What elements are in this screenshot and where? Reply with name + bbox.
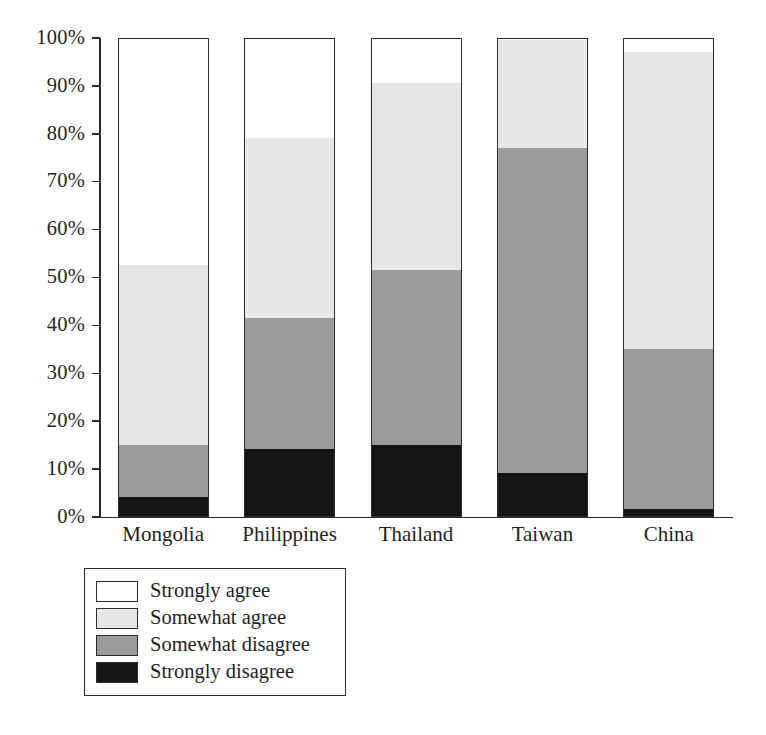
bar-segment-somewhat-agree[interactable] [371,83,462,270]
legend-swatch-icon [96,581,138,602]
bar-segment-somewhat-disagree[interactable] [118,445,209,498]
bar-segment-somewhat-agree[interactable] [118,265,209,445]
y-axis-tick-label: 100% [36,27,92,48]
bar-philippines[interactable] [244,38,335,517]
y-axis-tick-label: 80% [47,123,92,144]
bar-china[interactable] [623,38,714,517]
y-axis-tick-label: 70% [47,170,92,191]
bar-segment-somewhat-agree[interactable] [244,138,335,318]
y-axis-tick-label: 20% [47,410,92,431]
y-axis-tick-label: 30% [47,362,92,383]
legend-label: Strongly agree [150,580,270,601]
y-axis-tick-label: 40% [47,314,92,335]
y-axis-tick-label: 60% [47,218,92,239]
y-axis-tick-label: 50% [47,266,92,287]
y-axis-tick-label: 10% [47,458,92,479]
legend-item-somewhat-disagree[interactable]: Somewhat disagree [96,632,335,659]
y-axis-tick-mark [92,133,100,135]
legend-label: Somewhat agree [150,607,286,628]
y-axis-tick-label: 0% [57,506,92,527]
y-axis-tick-mark [92,181,100,183]
bar-segment-strongly-agree[interactable] [371,38,462,83]
bar-segment-strongly-agree[interactable] [118,38,209,265]
y-axis-tick-mark [92,420,100,422]
y-axis-tick-mark [92,468,100,470]
y-axis-tick-mark [92,37,100,39]
chart-legend: Strongly agreeSomewhat agreeSomewhat dis… [84,568,346,696]
bar-segment-somewhat-disagree[interactable] [371,270,462,445]
bar-segment-strongly-disagree[interactable] [244,449,335,516]
bar-segment-somewhat-disagree[interactable] [244,318,335,450]
bar-segment-somewhat-disagree[interactable] [497,148,588,474]
bar-segment-somewhat-disagree[interactable] [623,349,714,509]
legend-swatch-icon [96,635,138,656]
legend-item-strongly-agree[interactable]: Strongly agree [96,578,335,605]
bar-taiwan[interactable] [497,38,588,517]
bar-thailand[interactable] [371,38,462,517]
x-axis-label-china: China [606,521,732,547]
legend-swatch-icon [96,608,138,629]
x-axis-label-philippines: Philippines [226,521,352,547]
bar-segment-strongly-disagree[interactable] [118,497,209,516]
bar-segment-somewhat-agree[interactable] [497,40,588,148]
stacked-bar-chart: 0%10%20%30%40%50%60%70%80%90%100% Mongol… [0,0,766,735]
bar-segment-strongly-agree[interactable] [623,38,714,52]
y-axis-tick-label: 90% [47,75,92,96]
y-axis-tick-mark [92,277,100,279]
x-axis-line [99,517,733,519]
y-axis-tick-mark [92,325,100,327]
bar-segment-strongly-agree[interactable] [244,38,335,138]
legend-item-somewhat-agree[interactable]: Somewhat agree [96,605,335,632]
legend-item-strongly-disagree[interactable]: Strongly disagree [96,659,335,686]
legend-swatch-icon [96,662,138,683]
legend-label: Somewhat disagree [150,634,310,655]
x-axis-label-thailand: Thailand [353,521,479,547]
bar-segment-strongly-disagree[interactable] [371,445,462,517]
bar-mongolia[interactable] [118,38,209,517]
bar-segment-somewhat-agree[interactable] [623,52,714,349]
bar-segment-strongly-disagree[interactable] [623,509,714,516]
x-axis-label-taiwan: Taiwan [479,521,605,547]
plot-area [100,38,732,517]
y-axis-tick-mark [92,229,100,231]
y-axis-tick-mark [92,373,100,375]
x-axis-label-mongolia: Mongolia [100,521,226,547]
y-axis-tick-mark [92,85,100,87]
legend-label: Strongly disagree [150,661,294,682]
bar-segment-strongly-disagree[interactable] [497,473,588,516]
